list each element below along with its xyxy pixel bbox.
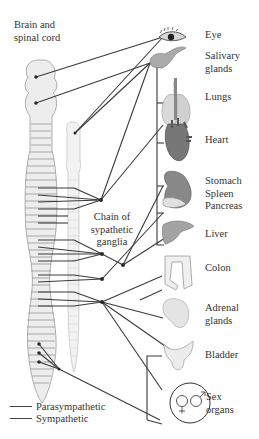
organ-label-stomach-spleen-pancreas: Stomach Spleen Pancreas	[205, 175, 242, 213]
organ-label-heart: Heart	[205, 134, 228, 147]
chain-of-ganglia-label: Chain of sypathetic ganglia	[80, 211, 144, 249]
lungs-icon	[162, 78, 190, 125]
sex-organs-icon	[170, 383, 210, 423]
heart-icon	[165, 118, 192, 161]
legend-label: Sympathetic	[36, 413, 89, 424]
organ-label-bladder: Bladder	[205, 349, 238, 362]
brain-spinal-cord	[25, 60, 57, 403]
salivary-glands-icon	[150, 47, 186, 68]
legend-parasympathetic: Parasympathetic	[10, 401, 105, 412]
sympathetic-chain-column	[66, 122, 80, 372]
organ-label-salivary-glands: Salivary glands	[205, 50, 240, 75]
organ-label-adrenal-glands: Adrenal glands	[205, 302, 239, 327]
legend-line-swatch	[10, 406, 32, 407]
organ-label-colon: Colon	[205, 262, 231, 275]
organ-label-sex-organs: Sex organs	[206, 391, 234, 416]
eye-icon	[159, 27, 186, 41]
legend-line-swatch	[10, 418, 32, 419]
liver-icon	[162, 221, 194, 244]
organ-label-eye: Eye	[205, 29, 221, 42]
colon-icon	[165, 256, 192, 290]
stomach-spleen-pancreas-icon	[163, 171, 191, 208]
brain-spinal-cord-label: Brain and spinal cord	[14, 19, 60, 44]
organ-label-lungs: Lungs	[205, 91, 231, 104]
legend-sympathetic: Sympathetic	[10, 413, 89, 424]
legend-label: Parasympathetic	[36, 401, 105, 412]
adrenal-glands-icon	[163, 299, 189, 328]
organ-label-liver: Liver	[205, 228, 228, 241]
bladder-icon	[164, 341, 193, 370]
